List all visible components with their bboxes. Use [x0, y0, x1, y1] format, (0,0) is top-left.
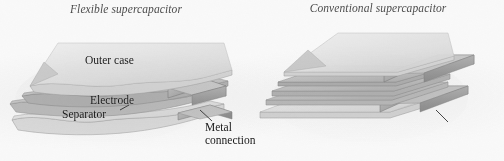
- panel-flexible-supercapacitor: Flexible supercapacitor: [0, 0, 252, 161]
- label-outer-case-flexible: Outer case: [85, 54, 134, 66]
- label-electrode-flexible: Electrode: [90, 94, 134, 106]
- label-metal-connection-flexible-line2: connection: [205, 134, 255, 146]
- panel-conventional-supercapacitor: Conventional supercapacitor: [252, 0, 504, 161]
- supercapacitor-comparison-figure: Flexible supercapacitor: [0, 0, 504, 161]
- conventional-supercapacitor-drawing: [252, 0, 504, 161]
- label-separator-flexible: Separator: [62, 108, 106, 120]
- label-metal-connection-flexible-line1: Metal: [205, 121, 232, 133]
